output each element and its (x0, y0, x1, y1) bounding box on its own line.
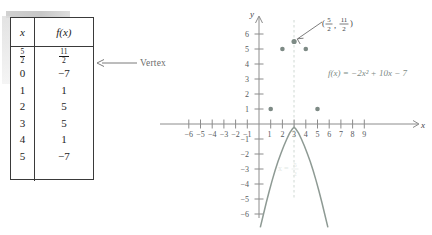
fraction-eleven-halves: 11 2 (59, 48, 68, 65)
vertex-y-denominator: 2 (342, 25, 346, 33)
column-header-x: x (11, 18, 34, 47)
table-row: 1 1 (11, 82, 93, 99)
data-point (268, 107, 273, 112)
data-point (315, 107, 320, 112)
paren-close: ) (350, 18, 353, 28)
cell-fx: 5 (34, 115, 93, 132)
y-tick-label: −1 (240, 135, 249, 144)
y-tick-label: 5 (245, 45, 249, 54)
table-row: 5 −7 (11, 148, 93, 165)
cell-x: 0 (11, 65, 34, 82)
left-arrow-icon (96, 58, 138, 68)
cell-fx-empty (34, 164, 93, 181)
x-tick-label: 9 (362, 130, 366, 139)
y-tick-label: 4 (245, 60, 249, 69)
cell-fx: 1 (34, 131, 93, 148)
x-tick-labels: −6 −5 −4 −3 −2 −1 1 2 3 4 5 6 7 8 9 (185, 130, 367, 139)
figure-page: x f(x) 5 2 11 2 0 −7 (0, 0, 432, 235)
vertex-leader-arrowhead (297, 38, 303, 44)
axis-of-symmetry-label: x = 5 2 (278, 161, 299, 178)
table-row: 3 5 (11, 115, 93, 132)
data-point (304, 47, 309, 52)
vertex-x-denominator: 2 (327, 25, 331, 33)
x-tick-label: 6 (327, 130, 331, 139)
cell-x-vertex: 5 2 (11, 47, 34, 66)
x-tick-label: 8 (351, 130, 355, 139)
cell-x: 5 (11, 148, 34, 165)
x-tick-label: −6 (185, 130, 194, 139)
vertex-y-numerator: 11 (341, 16, 348, 24)
cell-fx: 5 (34, 98, 93, 115)
cell-x: 4 (11, 131, 34, 148)
fraction-five-halves: 5 2 (20, 48, 26, 65)
x-tick-label: 2 (280, 130, 284, 139)
cell-x-empty (11, 164, 34, 181)
vertex-leader-line (298, 22, 322, 39)
y-tick-label: 3 (245, 75, 249, 84)
x-tick-label: −4 (208, 130, 217, 139)
cell-x: 2 (11, 98, 34, 115)
graph-svg: x y (150, 0, 432, 235)
vertex-coordinate-label: ( 5 2 , 11 2 ) (322, 16, 353, 33)
equation-label: f(x) = −2x² + 10x − 7 (328, 68, 407, 78)
symmetry-denominator: 2 (293, 170, 297, 178)
y-tick-label: 6 (245, 30, 249, 39)
x-tick-label: 3 (292, 130, 296, 139)
x-tick-label: −5 (196, 130, 205, 139)
y-tick-label: 2 (245, 90, 249, 99)
table-row: 4 1 (11, 131, 93, 148)
table-row: 2 5 (11, 98, 93, 115)
table-row: 0 −7 (11, 65, 93, 82)
paren-open: ( (322, 18, 325, 28)
y-tick-label: 1 (245, 105, 249, 114)
symmetry-numerator: 5 (293, 161, 297, 169)
column-header-fx: f(x) (34, 18, 93, 47)
y-tick-label: −6 (240, 210, 249, 219)
y-tick-label: −4 (240, 180, 249, 189)
x-tick-label: 5 (316, 130, 320, 139)
x-tick-label: 1 (268, 130, 272, 139)
data-point (280, 47, 285, 52)
y-axis-label: y (249, 9, 254, 19)
parabola-graph: x y (150, 0, 432, 235)
y-tick-label: −5 (240, 195, 249, 204)
data-point-vertex (292, 39, 297, 44)
x-tick-label: −3 (220, 130, 229, 139)
symmetry-label-prefix: x = (278, 164, 289, 173)
table-row-spacer (11, 164, 93, 181)
cell-fx: −7 (34, 65, 93, 82)
cell-x: 3 (11, 115, 34, 132)
cell-fx: −7 (34, 148, 93, 165)
table-row-vertex: 5 2 11 2 (11, 47, 93, 66)
value-table: x f(x) 5 2 11 2 0 −7 (10, 17, 94, 180)
x-axis-label: x (420, 120, 425, 130)
cell-x: 1 (11, 82, 34, 99)
x-tick-label: −2 (231, 130, 240, 139)
x-tick-label: 4 (304, 130, 308, 139)
table-header-row: x f(x) (11, 18, 93, 47)
x-tick-label: 7 (339, 130, 343, 139)
cell-fx: 1 (34, 82, 93, 99)
y-tick-label: −2 (240, 150, 249, 159)
comma: , (334, 20, 336, 30)
cell-fx-vertex: 11 2 (34, 47, 93, 66)
y-tick-label: −3 (240, 165, 249, 174)
vertex-x-numerator: 5 (327, 16, 331, 24)
